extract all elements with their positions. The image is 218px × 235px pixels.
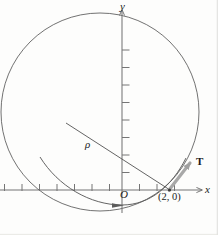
osculating-circle (1, 13, 199, 211)
point-coordinate-label: (2, 0) (158, 192, 181, 203)
x-axis-label: x (205, 184, 210, 195)
page-frame (0, 0, 218, 235)
figure-canvas: y x O ρ T (2, 0) (0, 0, 218, 235)
y-axis-ticks (122, 50, 130, 173)
y-axis-label: y (120, 1, 125, 12)
unit-tangent-vector-arrow (169, 163, 190, 190)
tangent-vector-label: T (196, 156, 203, 167)
radius-of-curvature-line (66, 123, 170, 190)
origin-label: O (120, 189, 128, 200)
radius-of-curvature-label: ρ (85, 139, 90, 150)
diagram-svg (0, 0, 218, 235)
